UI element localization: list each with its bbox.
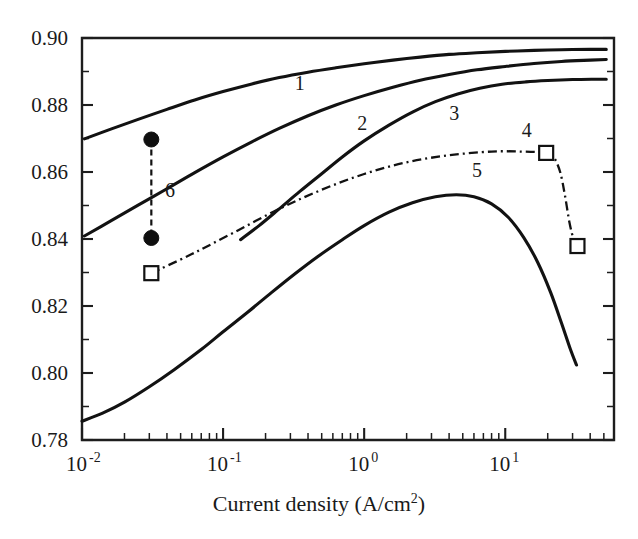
- figure-container: 0.780.800.820.840.860.880.90 10-210-1100…: [0, 0, 638, 539]
- data-point-filled-circle: [144, 230, 159, 245]
- x-axis-title-close: ): [418, 491, 425, 516]
- y-tick-label: 0.82: [31, 294, 68, 318]
- x-axis-tick-labels: 10-210-1100101: [66, 450, 519, 476]
- x-tick-label: 10-2: [66, 450, 101, 476]
- y-tick-label: 0.90: [31, 26, 68, 50]
- curve-label-3: 3: [449, 102, 459, 124]
- curve-label-2: 2: [357, 112, 367, 134]
- curve-label-1: 1: [295, 72, 305, 94]
- data-point-open-square: [570, 239, 584, 253]
- x-tick-label-exponent: -1: [230, 450, 242, 465]
- x-tick-label-exponent: 0: [371, 450, 378, 465]
- y-tick-label: 0.78: [31, 428, 68, 452]
- x-axis-title-base: Current density (A/cm: [213, 491, 411, 516]
- x-tick-label-base: 10: [207, 452, 228, 476]
- curve-label-5: 5: [472, 159, 482, 181]
- x-tick-label-exponent: 1: [512, 450, 519, 465]
- x-tick-label: 100: [348, 450, 378, 476]
- curve-label-4: 4: [522, 119, 532, 141]
- data-point-open-square: [144, 266, 158, 280]
- x-axis-title-group: Current density (A/cm2): [213, 491, 425, 516]
- x-tick-label-base: 10: [348, 452, 369, 476]
- curve-4: [151, 151, 577, 273]
- curve-5: [82, 195, 577, 421]
- curve-2: [84, 59, 606, 236]
- y-tick-label: 0.84: [31, 227, 68, 251]
- y-axis-tick-labels: 0.780.800.820.840.860.880.90: [31, 26, 68, 452]
- x-tick-label: 101: [489, 450, 519, 476]
- chart-svg: 0.780.800.820.840.860.880.90 10-210-1100…: [0, 0, 638, 539]
- x-tick-label-base: 10: [66, 452, 87, 476]
- data-point-open-square: [539, 146, 553, 160]
- axes-group: 0.780.800.820.840.860.880.90 10-210-1100…: [31, 26, 614, 476]
- y-tick-label: 0.86: [31, 160, 68, 184]
- x-axis-title-superscript: 2: [411, 491, 418, 506]
- y-tick-label: 0.80: [31, 361, 68, 385]
- curve-label-6: 6: [165, 179, 175, 201]
- x-axis-title: Current density (A/cm2): [213, 491, 425, 516]
- x-tick-label: 10-1: [207, 450, 242, 476]
- x-tick-label-base: 10: [489, 452, 510, 476]
- y-tick-label: 0.88: [31, 93, 68, 117]
- data-point-filled-circle: [144, 132, 159, 147]
- marker-group: [144, 132, 585, 280]
- series-group: [82, 49, 606, 421]
- x-axis-ticks: [82, 428, 604, 440]
- x-tick-label-exponent: -2: [89, 450, 101, 465]
